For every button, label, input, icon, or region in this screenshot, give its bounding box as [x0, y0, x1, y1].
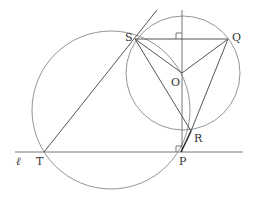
label-line-l: ℓ: [16, 155, 21, 168]
segment-SO: [135, 39, 182, 73]
small-circle: [126, 16, 240, 130]
label-R: R: [194, 132, 203, 145]
large-circle: [32, 31, 190, 189]
label-P: P: [179, 155, 187, 168]
segment-SR: [135, 39, 191, 131]
label-T: T: [36, 155, 44, 168]
label-S: S: [125, 31, 133, 44]
label-O: O: [171, 76, 180, 89]
right-angle-mark-top: [176, 33, 182, 39]
geometry-diagram: S Q O R P T ℓ: [0, 0, 255, 202]
label-Q: Q: [232, 31, 241, 44]
